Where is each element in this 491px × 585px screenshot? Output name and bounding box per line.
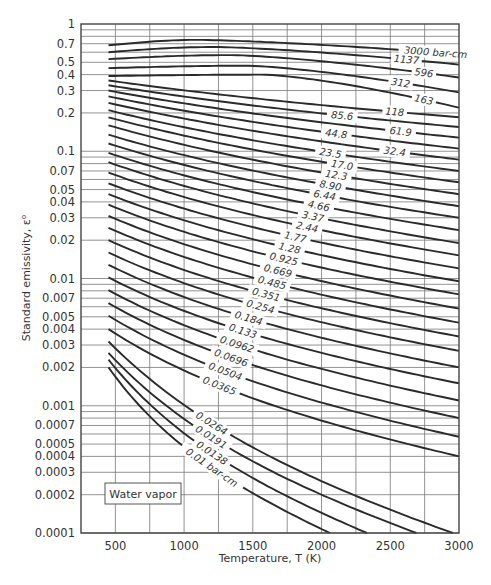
- y-tick-label: 0.002: [42, 360, 75, 374]
- x-tick-label: 2000: [307, 539, 336, 553]
- curve-label-text: 1137: [393, 53, 420, 66]
- emissivity-curve: [109, 316, 460, 437]
- water-vapor-legend: Water vapor: [105, 483, 181, 504]
- y-tick-label: 0.003: [42, 338, 75, 352]
- curve-label: 312: [388, 75, 414, 91]
- curve-label: 596: [411, 65, 437, 80]
- x-tick-label: 3000: [444, 539, 473, 553]
- emissivity-curve: [109, 329, 460, 456]
- curve-label-text: 163: [413, 92, 434, 107]
- y-tick-label: 0.0004: [35, 449, 75, 463]
- y-tick-label: 0.0001: [35, 526, 75, 540]
- curve-label: 61.9: [385, 124, 417, 139]
- curve-label: 118: [382, 105, 408, 119]
- y-tick-label: 0.04: [49, 195, 75, 209]
- y-tick-label: 0.3: [57, 84, 75, 98]
- y-tick-label: 0.0003: [35, 465, 75, 479]
- emissivity-curve: [109, 110, 460, 171]
- emissivity-curve: [109, 360, 367, 533]
- y-tick-label: 0.007: [42, 291, 75, 305]
- x-axis-title: Temperature, T (K): [218, 552, 322, 565]
- emissivity-chart: 3000 bar-cm113759631216311885.661.944.83…: [0, 0, 491, 585]
- legend-label: Water vapor: [109, 488, 177, 501]
- emissivity-curve: [109, 353, 417, 533]
- y-tick-label: 0.1: [57, 144, 75, 158]
- y-axis-ticks: 10.70.50.40.30.20.10.070.050.040.030.020…: [35, 17, 75, 540]
- x-tick-label: 2500: [376, 539, 405, 553]
- curve-label: 44.8: [320, 126, 352, 142]
- y-tick-label: 0.0007: [35, 418, 75, 432]
- curve-label-text: 118: [385, 105, 405, 118]
- y-tick-label: 0.7: [57, 37, 75, 51]
- y-tick-label: 0.004: [42, 322, 75, 336]
- x-axis-ticks: 50010001500200025003000: [104, 539, 473, 553]
- x-tick-label: 500: [104, 539, 126, 553]
- curve-label: 163: [411, 91, 438, 108]
- y-tick-label: 0.2: [57, 106, 75, 120]
- y-tick-label: 0.0002: [35, 488, 75, 502]
- y-tick-label: 0.07: [49, 164, 75, 178]
- y-tick-label: 0.4: [57, 68, 75, 82]
- y-axis-title: Standard emissivity, ε⁰: [20, 214, 33, 341]
- x-tick-label: 1000: [169, 539, 198, 553]
- x-tick-label: 1500: [238, 539, 267, 553]
- curve-label: 1137: [391, 52, 423, 67]
- y-tick-label: 0.02: [49, 233, 75, 247]
- curve-label: 85.6: [326, 108, 358, 123]
- y-tick-label: 0.01: [49, 272, 75, 286]
- curve-label-text: 85.6: [331, 109, 354, 122]
- y-tick-label: 0.03: [49, 211, 75, 225]
- y-tick-label: 0.001: [42, 399, 75, 413]
- y-tick-label: 1: [68, 17, 75, 31]
